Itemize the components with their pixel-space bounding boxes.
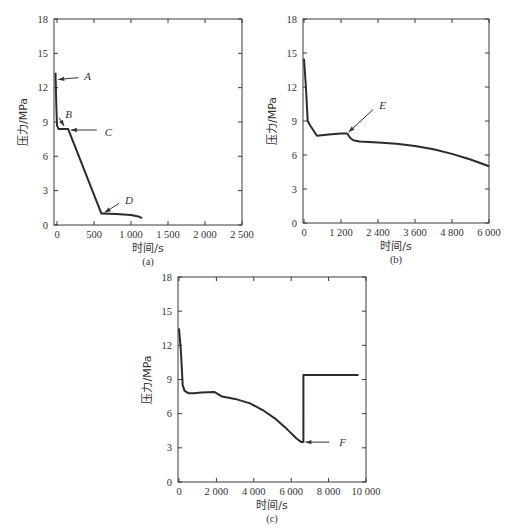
annotation-label-e: E bbox=[378, 99, 386, 111]
y-tick-label: 9 bbox=[167, 374, 172, 385]
chart-c: 036912151802 0004 0006 0008 00010 000时间/… bbox=[141, 272, 380, 526]
pressure-curve bbox=[179, 328, 359, 442]
y-tick-label: 12 bbox=[162, 340, 173, 351]
chart-a: 036912151805001 0001 5002 0002 500时间/s(a… bbox=[17, 14, 254, 269]
plot-frame bbox=[178, 277, 366, 482]
y-tick-label: 6 bbox=[43, 151, 48, 162]
y-tick-label: 9 bbox=[43, 117, 48, 128]
y-tick-label: 3 bbox=[292, 184, 297, 195]
y-tick-label: 0 bbox=[292, 218, 297, 229]
subfigure-caption: (b) bbox=[390, 254, 403, 266]
annotation-label-b: B bbox=[65, 108, 72, 120]
y-axis-label: 压力/MPa bbox=[266, 97, 279, 145]
y-tick-label: 15 bbox=[162, 306, 173, 317]
x-tick-label: 2 000 bbox=[193, 229, 217, 240]
arrow-head-icon bbox=[105, 207, 111, 212]
x-tick-label: 8 000 bbox=[317, 486, 341, 497]
x-tick-label: 0 bbox=[176, 486, 181, 497]
x-tick-label: 10 000 bbox=[352, 486, 381, 497]
y-axis-label: 压力/MPa bbox=[17, 98, 30, 146]
x-tick-label: 4 000 bbox=[242, 486, 266, 497]
y-tick-label: 18 bbox=[287, 14, 298, 25]
y-tick-label: 3 bbox=[167, 442, 172, 453]
arrow-head-icon bbox=[59, 120, 64, 126]
subfigure-caption: (c) bbox=[266, 513, 278, 525]
y-tick-label: 15 bbox=[38, 48, 49, 59]
y-axis-label: 压力/MPa bbox=[141, 355, 154, 403]
x-tick-label: 1 000 bbox=[119, 229, 143, 240]
y-tick-label: 18 bbox=[38, 14, 49, 25]
arrow-head-icon bbox=[305, 440, 311, 444]
x-axis-label: 时间/s bbox=[380, 240, 412, 253]
annotation-label-d: D bbox=[124, 194, 133, 206]
plot-frame bbox=[54, 19, 242, 225]
y-tick-label: 6 bbox=[167, 408, 172, 419]
annotation-label-f: F bbox=[338, 436, 346, 448]
y-tick-label: 3 bbox=[43, 185, 48, 196]
x-axis-label: 时间/s bbox=[132, 242, 164, 255]
y-tick-label: 0 bbox=[167, 477, 172, 488]
x-tick-label: 0 bbox=[301, 227, 306, 238]
y-tick-label: 0 bbox=[43, 220, 48, 231]
y-tick-label: 12 bbox=[287, 82, 298, 93]
x-tick-label: 3 600 bbox=[403, 227, 427, 238]
x-tick-label: 1 200 bbox=[329, 227, 353, 238]
arrow-head-icon bbox=[71, 128, 77, 132]
y-tick-label: 12 bbox=[38, 82, 49, 93]
x-tick-label: 4 800 bbox=[440, 227, 464, 238]
chart-b: 036912151801 2002 4003 6004 8006 000时间/s… bbox=[266, 14, 501, 267]
y-tick-label: 15 bbox=[287, 48, 298, 59]
pressure-curve bbox=[304, 59, 489, 167]
x-tick-label: 500 bbox=[86, 229, 102, 240]
y-tick-label: 18 bbox=[162, 272, 173, 283]
annotation-label-c: C bbox=[105, 126, 113, 138]
figure-canvas: 036912151805001 0001 5002 0002 500时间/s(a… bbox=[0, 0, 505, 531]
x-tick-label: 6 000 bbox=[477, 227, 501, 238]
annotation-label-a: A bbox=[83, 70, 91, 82]
y-tick-label: 6 bbox=[292, 150, 297, 161]
subfigure-caption: (a) bbox=[142, 256, 154, 268]
plot-frame bbox=[303, 19, 489, 223]
x-tick-label: 2 400 bbox=[366, 227, 390, 238]
x-tick-label: 6 000 bbox=[279, 486, 303, 497]
x-axis-label: 时间/s bbox=[256, 499, 288, 512]
x-tick-label: 2 000 bbox=[205, 486, 229, 497]
y-tick-label: 9 bbox=[292, 116, 297, 127]
x-tick-label: 1 500 bbox=[156, 229, 180, 240]
x-tick-label: 2 500 bbox=[230, 229, 254, 240]
x-tick-label: 0 bbox=[54, 229, 59, 240]
